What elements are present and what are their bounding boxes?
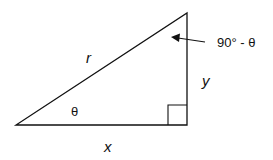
angle-pointer-arrow-line	[178, 38, 205, 42]
right-angle-marker	[168, 105, 187, 125]
theta-angle-label: θ	[71, 104, 78, 119]
triangle-diagram: r y θ x 90° - θ	[0, 0, 273, 160]
right-triangle	[16, 13, 187, 125]
hypotenuse-label: r	[86, 49, 92, 66]
arrowhead-icon	[171, 34, 180, 43]
horizontal-side-label: x	[103, 138, 112, 155]
top-angle-label: 90° - θ	[217, 35, 255, 50]
vertical-side-label: y	[201, 72, 211, 89]
